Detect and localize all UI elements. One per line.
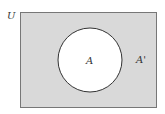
complement-label: A' — [135, 54, 146, 65]
universe-label: U — [7, 10, 16, 21]
venn-diagram: U A A' — [0, 0, 165, 114]
set-a-label: A — [85, 55, 93, 66]
